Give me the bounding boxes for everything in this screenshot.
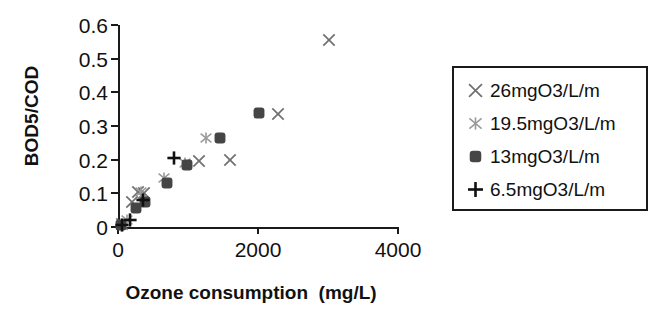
data-point xyxy=(212,130,228,146)
legend: 26mgO3/L/m19.5mgO3/L/m13mgO3/L/m6.5mgO3/… xyxy=(452,66,648,211)
x-tick-label: 0 xyxy=(112,239,124,260)
y-tick-mark xyxy=(111,24,118,26)
plus-icon xyxy=(463,178,487,202)
data-point xyxy=(134,184,149,199)
data-point xyxy=(137,194,153,210)
legend-item[interactable]: 19.5mgO3/L/m xyxy=(454,107,646,140)
data-point xyxy=(178,156,193,171)
data-point xyxy=(135,193,150,208)
scatter-chart-figure: BOD5/COD Ozone consumption (mg/L) 00.10.… xyxy=(0,0,672,324)
data-point xyxy=(223,152,238,167)
y-tick-label: 0 xyxy=(96,217,108,238)
data-point xyxy=(131,184,146,199)
data-point xyxy=(191,154,206,169)
x-cross-icon xyxy=(463,79,487,103)
y-tick-label: 0.5 xyxy=(79,48,108,69)
plot-area: 00.10.20.30.40.50.6 020004000 xyxy=(118,25,398,228)
y-axis-title: BOD5/COD xyxy=(14,26,50,206)
data-point xyxy=(198,130,213,145)
y-axis-line xyxy=(118,25,120,229)
data-point xyxy=(270,107,285,122)
y-tick-mark xyxy=(111,192,118,194)
legend-item-label: 13mgO3/L/m xyxy=(490,147,600,166)
y-tick-label: 0.4 xyxy=(79,82,108,103)
data-point xyxy=(322,33,337,48)
legend-item-label: 6.5mgO3/L/m xyxy=(490,180,605,199)
x-tick-mark xyxy=(117,227,119,234)
data-point xyxy=(120,213,135,228)
data-point xyxy=(167,150,182,165)
legend-item-label: 26mgO3/L/m xyxy=(490,81,600,100)
y-tick-mark xyxy=(111,159,118,161)
legend-item[interactable]: 13mgO3/L/m xyxy=(454,140,646,173)
data-point xyxy=(128,200,144,216)
data-point xyxy=(125,194,140,209)
y-tick-mark xyxy=(111,91,118,93)
data-point xyxy=(157,171,172,186)
x-tick-label: 4000 xyxy=(375,239,422,260)
y-axis-title-text: BOD5/COD xyxy=(21,66,43,166)
legend-item[interactable]: 6.5mgO3/L/m xyxy=(454,173,646,206)
data-point xyxy=(179,157,195,173)
y-tick-label: 0.1 xyxy=(79,183,108,204)
data-point xyxy=(159,175,175,191)
x-tick-label: 2000 xyxy=(235,239,282,260)
y-tick-label: 0.6 xyxy=(79,15,108,36)
x-tick-mark xyxy=(397,227,399,234)
x-tick-mark xyxy=(257,227,259,234)
filled-square-icon xyxy=(463,145,487,169)
data-point xyxy=(136,186,151,201)
x-axis-title: Ozone consumption (mg/L) xyxy=(86,282,416,304)
data-point xyxy=(251,105,267,121)
y-tick-label: 0.2 xyxy=(79,149,108,170)
legend-item[interactable]: 26mgO3/L/m xyxy=(454,74,646,107)
data-point xyxy=(122,213,137,228)
y-tick-mark xyxy=(111,58,118,60)
y-tick-mark xyxy=(111,125,118,127)
asterisk-icon xyxy=(463,112,487,136)
y-tick-label: 0.3 xyxy=(79,116,108,137)
legend-item-label: 19.5mgO3/L/m xyxy=(490,114,616,133)
